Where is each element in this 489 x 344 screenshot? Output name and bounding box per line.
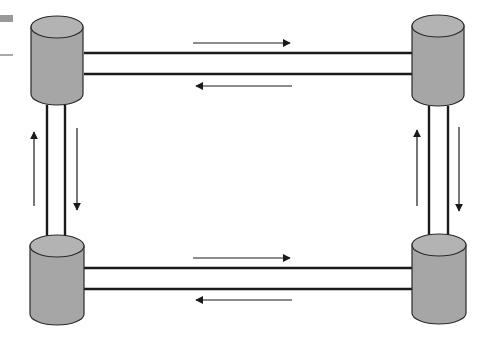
database-icon-top xyxy=(412,234,466,256)
replication-ring-diagram xyxy=(0,0,489,344)
database-node-top-right xyxy=(412,15,464,106)
database-icon-body xyxy=(412,245,466,324)
database-icon-top xyxy=(31,16,83,38)
edge-mark-bar xyxy=(0,15,13,22)
database-icon-body xyxy=(30,246,84,325)
database-icon-top xyxy=(30,235,84,257)
link-top xyxy=(84,43,412,86)
database-node-bottom-left xyxy=(30,235,84,325)
link-right xyxy=(417,106,459,240)
database-node-top-left xyxy=(31,16,83,105)
database-icon-body xyxy=(31,27,83,105)
database-icon-top xyxy=(412,15,464,37)
link-bottom xyxy=(84,258,412,300)
database-icon-body xyxy=(412,26,464,106)
link-left xyxy=(34,105,77,240)
database-node-bottom-right xyxy=(412,234,466,324)
